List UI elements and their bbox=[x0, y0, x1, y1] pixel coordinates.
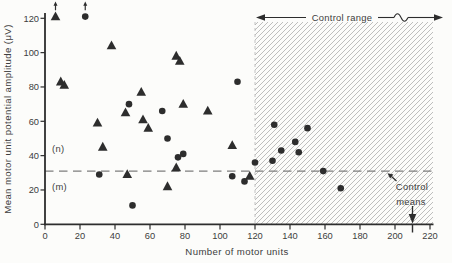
triangle-marker bbox=[245, 171, 255, 180]
circle-marker bbox=[304, 125, 311, 132]
circle-marker bbox=[159, 108, 166, 115]
circle-marker bbox=[241, 178, 248, 185]
n-region-label: (n) bbox=[52, 143, 64, 154]
y-tick-label: 100 bbox=[23, 48, 39, 58]
triangle-marker bbox=[98, 142, 108, 151]
y-tick-label: 80 bbox=[29, 82, 39, 92]
control-means-label-line2: means bbox=[396, 196, 426, 207]
x-tick-label: 40 bbox=[110, 231, 120, 241]
x-tick-label: 0 bbox=[42, 231, 47, 241]
circle-marker bbox=[82, 13, 89, 20]
circle-marker bbox=[292, 139, 299, 146]
triangle-marker bbox=[178, 99, 188, 108]
circle-marker bbox=[126, 101, 133, 108]
x-tick-label: 160 bbox=[317, 231, 333, 241]
y-tick-label: 20 bbox=[29, 185, 39, 195]
control-range-hatch-region bbox=[255, 22, 433, 224]
circle-marker bbox=[252, 159, 259, 166]
circle-marker bbox=[295, 149, 302, 156]
circle-marker bbox=[234, 79, 241, 86]
x-tick-label: 220 bbox=[422, 231, 438, 241]
y-tick-label: 0 bbox=[34, 220, 39, 230]
m-region-label: (m) bbox=[52, 181, 67, 192]
circle-marker bbox=[269, 157, 276, 164]
triangle-marker bbox=[171, 162, 181, 171]
triangle-marker bbox=[143, 123, 153, 132]
triangle-marker bbox=[203, 106, 213, 115]
x-tick-label: 20 bbox=[75, 231, 85, 241]
scatter-plot: 0204060801001201401601802002200204060801… bbox=[0, 0, 452, 263]
triangle-marker bbox=[227, 140, 237, 149]
x-axis-label: Number of motor units bbox=[185, 246, 288, 257]
circle-marker bbox=[278, 147, 285, 154]
y-tick-label: 120 bbox=[23, 14, 39, 24]
circle-marker bbox=[129, 202, 136, 209]
circle-marker bbox=[271, 121, 278, 128]
control-range-arrow-right-head bbox=[434, 14, 443, 21]
x-tick-label: 200 bbox=[387, 231, 403, 241]
triangle-marker bbox=[93, 118, 103, 127]
triangle-marker bbox=[107, 41, 117, 50]
triangle-marker bbox=[138, 114, 148, 123]
offscale-up-arrow-head bbox=[54, 2, 58, 6]
triangle-marker bbox=[136, 87, 146, 96]
x-tick-label: 60 bbox=[145, 231, 155, 241]
circle-marker bbox=[337, 185, 344, 192]
control-range-label: Control range bbox=[312, 12, 373, 23]
y-tick-label: 40 bbox=[29, 151, 39, 161]
motor-units-scatter-figure: 0204060801001201401601802002200204060801… bbox=[0, 0, 452, 263]
control-means-label-line1: Control bbox=[396, 181, 428, 192]
axis-break-squiggle bbox=[394, 14, 408, 22]
y-tick-label: 60 bbox=[29, 117, 39, 127]
x-tick-label: 120 bbox=[247, 231, 263, 241]
triangle-marker bbox=[51, 11, 61, 20]
circle-marker bbox=[164, 135, 171, 142]
triangle-marker bbox=[121, 108, 131, 117]
y-axis-label: Mean motor unit potential amplitude (μV) bbox=[2, 24, 13, 214]
circle-marker bbox=[180, 151, 187, 158]
triangle-marker bbox=[163, 181, 173, 190]
x-tick-label: 100 bbox=[212, 231, 228, 241]
circle-marker bbox=[229, 173, 236, 180]
x-tick-label: 140 bbox=[282, 231, 298, 241]
x-tick-label: 80 bbox=[180, 231, 190, 241]
circle-marker bbox=[320, 168, 327, 175]
x-tick-label: 180 bbox=[352, 231, 368, 241]
offscale-up-arrow-head bbox=[83, 2, 87, 6]
circle-marker bbox=[96, 171, 103, 178]
